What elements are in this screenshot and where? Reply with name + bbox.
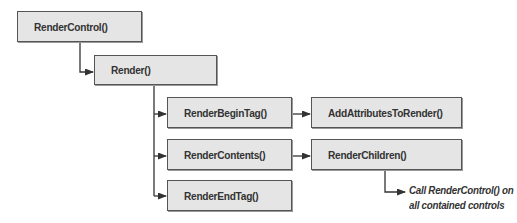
- node-label: RenderChildren(): [328, 149, 406, 161]
- node-render-children: RenderChildren(): [311, 139, 462, 170]
- node-render-control: RenderControl(): [17, 11, 142, 42]
- edge-children-note: [385, 170, 405, 192]
- node-label: Render(): [111, 64, 151, 76]
- recursion-note: Call RenderControl() on all contained co…: [409, 183, 517, 213]
- node-render-begin-tag: RenderBeginTag(): [167, 97, 292, 128]
- node-render-end-tag: RenderEndTag(): [167, 180, 292, 211]
- node-label: RenderBeginTag(): [184, 107, 267, 119]
- node-label: AddAttributesToRender(): [328, 107, 443, 119]
- node-render-contents: RenderContents(): [167, 139, 292, 170]
- node-label: RenderControl(): [34, 21, 108, 33]
- node-label: RenderContents(): [184, 149, 265, 161]
- node-label: RenderEndTag(): [184, 190, 258, 202]
- node-render: Render(): [94, 55, 217, 85]
- note-line-1: Call RenderControl() on: [409, 183, 513, 198]
- edge-rendercontrol-render: [80, 42, 93, 72]
- node-add-attributes-to-render: AddAttributesToRender(): [311, 97, 462, 128]
- note-line-2: all contained controls: [409, 198, 513, 213]
